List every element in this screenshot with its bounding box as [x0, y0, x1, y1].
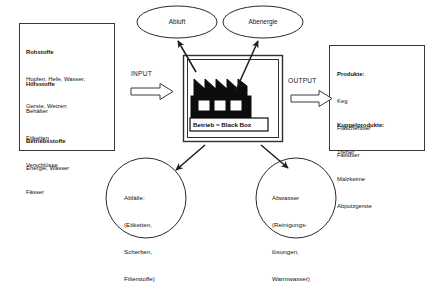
ellipse-label-abluft: Abluft: [147, 18, 207, 25]
output-block-arrow: [291, 91, 332, 107]
input-heading-rohstoffe: Rohstoffe: [26, 48, 112, 57]
circle-abwasser-line-1: Abwasser: [272, 194, 338, 203]
circle-abfaelle-line-1: Abfälle:: [124, 194, 188, 203]
input-line-betriebsstoffe-1: Energie, Wasser: [26, 164, 112, 173]
input-label: INPUT: [131, 70, 152, 77]
input-heading-betriebsstoffe: Betriebsstoffe: [26, 137, 112, 146]
output-line-kuppelprodukte-2: Malzkeime: [337, 175, 423, 184]
factory-window-1: [198, 100, 210, 111]
factory-window-2: [214, 100, 226, 111]
factory-caption-text: Betrieb = Black Box: [193, 121, 251, 128]
output-box-section-kuppelprodukte: Kuppelprodukte: Treber Malzkeime Abputzg…: [337, 103, 423, 229]
input-block-arrow: [131, 84, 173, 100]
circle-abwasser-line-4: Warmwasser): [272, 275, 338, 284]
circle-abfaelle-line-2: (Etiketten,: [124, 221, 188, 230]
arrow-to-abfaelle: [176, 145, 205, 170]
circle-label-abfaelle: Abfälle: (Etiketten, Scherben, Filtersto…: [124, 176, 188, 286]
circle-abwasser-line-3: lösungen,: [272, 248, 338, 257]
circle-label-abwasser: Abwasser (Reinigungs- lösungen, Warmwass…: [272, 176, 338, 286]
output-heading-kuppelprodukte: Kuppelprodukte:: [337, 121, 423, 130]
input-heading-hilfsstoffe: Hilfsstoffe: [26, 80, 112, 89]
input-box-section-betriebsstoffe: Betriebsstoffe Energie, Wasser: [26, 119, 112, 191]
output-heading-produkte: Produkte:: [337, 70, 423, 79]
circle-abwasser-line-2: (Reinigungs-: [272, 221, 338, 230]
input-line-hilfsstoffe-1: Behälter: [26, 107, 112, 116]
output-line-kuppelprodukte-3: Abputzgerste: [337, 202, 423, 211]
ellipse-label-abenergie: Abenergie: [233, 18, 293, 25]
output-label: OUTPUT: [288, 77, 317, 84]
output-line-kuppelprodukte-1: Treber: [337, 148, 423, 157]
circle-abfaelle-line-4: Filterstoffe): [124, 275, 188, 284]
factory-window-3: [230, 100, 242, 111]
circle-abfaelle-line-3: Scherben,: [124, 248, 188, 257]
arrow-to-abenergie: [236, 41, 258, 90]
